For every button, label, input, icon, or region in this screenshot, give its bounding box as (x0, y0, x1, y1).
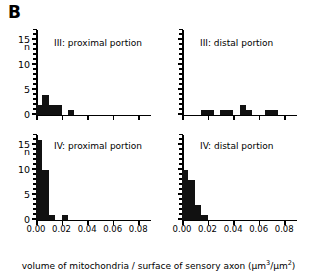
y-tick (178, 143, 183, 145)
y-tick (179, 68, 183, 70)
x-tick-label: 0.06 (103, 225, 122, 234)
y-tick (179, 138, 183, 140)
y-tick (178, 88, 183, 90)
panel-label-b: B (8, 2, 21, 22)
histogram-iv-proximal: 051015n0.000.020.040.060.08IV: proximal … (36, 135, 151, 221)
panel-title: IV: proximal portion (54, 141, 142, 151)
y-tick (179, 53, 183, 55)
histogram-bar (246, 110, 252, 115)
y-tick (179, 83, 183, 85)
x-tick-label: 0.04 (78, 225, 97, 234)
x-tick (208, 116, 210, 120)
y-tick (33, 29, 37, 31)
plot-area: III: distal portion (182, 30, 297, 116)
panel-title: III: distal portion (200, 38, 273, 48)
histogram-bar (55, 105, 61, 115)
panel-title: III: proximal portion (54, 38, 142, 48)
x-tick-label: 0.08 (129, 225, 148, 234)
x-tick-label: 0.00 (173, 225, 192, 234)
y-tick (33, 48, 37, 50)
y-tick (179, 158, 183, 160)
y-tick (33, 83, 37, 85)
y-tick (179, 73, 183, 75)
x-axis (36, 220, 151, 222)
y-tick (33, 33, 37, 35)
plot-area: 0.000.020.040.060.08IV: distal portion (182, 135, 297, 221)
histogram-bar (42, 170, 48, 220)
y-axis-count-label: n (24, 147, 30, 157)
x-tick-label: 0.00 (27, 225, 46, 234)
histogram-bar (68, 110, 74, 115)
y-tick-label: 5 (24, 190, 30, 200)
y-tick (33, 73, 37, 75)
x-axis (182, 115, 297, 117)
x-tick (36, 116, 38, 120)
x-tick-label: 0.04 (224, 225, 243, 234)
y-tick-label: 0 (24, 215, 30, 225)
x-tick-label: 0.06 (249, 225, 268, 234)
x-tick-label: 0.02 (198, 225, 217, 234)
plot-area: 051015nIII: proximal portion (36, 30, 151, 116)
histogram-iv-distal: 0.000.020.040.060.08IV: distal portion (182, 135, 297, 221)
histogram-iii-distal: III: distal portion (182, 30, 297, 116)
y-tick-label: 10 (18, 60, 30, 70)
y-tick-label: 0 (24, 110, 30, 120)
caption-text-suffix: ) (292, 261, 296, 271)
x-tick (87, 116, 89, 120)
x-axis (182, 220, 297, 222)
y-tick (32, 38, 37, 40)
histogram-bar (271, 110, 277, 115)
y-tick (33, 58, 37, 60)
caption-text-mid: /µm (270, 261, 288, 271)
y-tick (33, 68, 37, 70)
x-tick (233, 116, 235, 120)
x-tick-label: 0.08 (275, 225, 294, 234)
y-tick-label: 5 (24, 85, 30, 95)
y-tick (179, 58, 183, 60)
y-tick (178, 63, 183, 65)
y-tick (179, 103, 183, 105)
y-tick (179, 108, 183, 110)
caption-text-prefix: volume of mitochondria / surface of sens… (22, 261, 266, 271)
plot-area: 051015n0.000.020.040.060.08IV: proximal … (36, 135, 151, 221)
y-tick (178, 113, 183, 115)
y-tick (33, 43, 37, 45)
x-tick (138, 116, 140, 120)
y-tick (179, 78, 183, 80)
y-tick (179, 163, 183, 165)
y-tick (33, 98, 37, 100)
y-tick (178, 38, 183, 40)
y-tick (179, 134, 183, 136)
y-tick (179, 98, 183, 100)
y-tick-label: 10 (18, 165, 30, 175)
x-axis (36, 115, 151, 117)
histogram-bar (201, 215, 207, 220)
x-tick (284, 116, 286, 120)
y-tick (33, 53, 37, 55)
x-tick-label: 0.02 (52, 225, 71, 234)
y-tick (179, 43, 183, 45)
histogram-iii-proximal: 051015nIII: proximal portion (36, 30, 151, 116)
y-tick (179, 48, 183, 50)
y-tick (179, 148, 183, 150)
y-tick (33, 93, 37, 95)
x-tick (62, 116, 64, 120)
histogram-bar (227, 110, 233, 115)
figure-caption: volume of mitochondria / surface of sens… (0, 258, 317, 272)
x-tick (113, 116, 115, 120)
y-tick (179, 153, 183, 155)
y-tick (179, 93, 183, 95)
y-tick (33, 134, 37, 136)
y-tick (179, 33, 183, 35)
figure-panel-grid: 051015nIII: proximal portion III: distal… (0, 30, 317, 238)
histogram-bar (208, 110, 214, 115)
y-tick (32, 63, 37, 65)
y-tick (179, 29, 183, 31)
y-axis-count-label: n (24, 42, 30, 52)
x-tick (259, 116, 261, 120)
y-tick (33, 78, 37, 80)
y-tick (32, 88, 37, 90)
panel-title: IV: distal portion (200, 141, 273, 151)
histogram-bar (62, 215, 68, 220)
histogram-bar (49, 215, 55, 220)
